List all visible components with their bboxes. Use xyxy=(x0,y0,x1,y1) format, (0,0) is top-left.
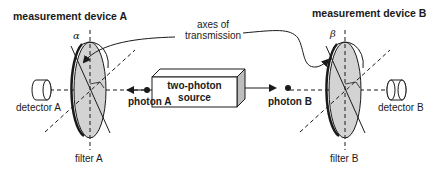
source-label-line1: two-photon xyxy=(152,80,237,91)
device-b-title: measurement device B xyxy=(312,7,426,19)
detector-a-icon xyxy=(32,80,51,100)
photon-b-label: photon B xyxy=(268,96,312,107)
detector-b-icon xyxy=(387,80,406,100)
angle-beta-label: β xyxy=(330,28,336,39)
angle-alpha-label: α xyxy=(73,30,80,41)
axes-label-line1: axes of xyxy=(193,19,233,30)
photon-a-label: photon A xyxy=(128,96,172,107)
axes-label-line2: transmission xyxy=(180,30,246,41)
photon-a-dot xyxy=(144,87,150,93)
filter-a-label: filter A xyxy=(75,153,103,164)
photon-b-dot xyxy=(285,85,291,91)
detector-a-label: detector A xyxy=(16,102,61,113)
callout-curve-b xyxy=(243,31,328,67)
device-a-title: measurement device A xyxy=(13,10,127,22)
filter-b-label: filter B xyxy=(330,153,358,164)
detector-b-label: detector B xyxy=(378,102,424,113)
